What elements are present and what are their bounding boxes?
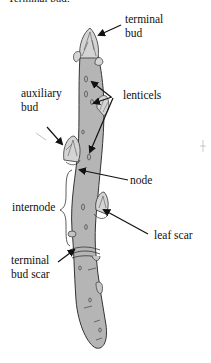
label-node: node [130,173,152,187]
arrow-terminal-bud [99,25,121,35]
twig-illustration [0,0,211,363]
label-terminal-bud-scar: terminal bud scar [11,253,50,281]
label-internode: internode [12,200,55,214]
auxiliary-bud-shape [64,136,80,165]
label-leaf-scar: leaf scar [154,228,193,242]
label-terminal-bud: terminal bud [125,12,163,40]
arrow-auxiliary-bud [47,127,62,144]
label-auxiliary-bud: auxiliary bud [21,86,62,114]
label-lenticels: lenticels [123,88,161,102]
arrow-terminal-bud-scar [58,250,74,262]
arrow-leaf-scar [104,210,148,234]
